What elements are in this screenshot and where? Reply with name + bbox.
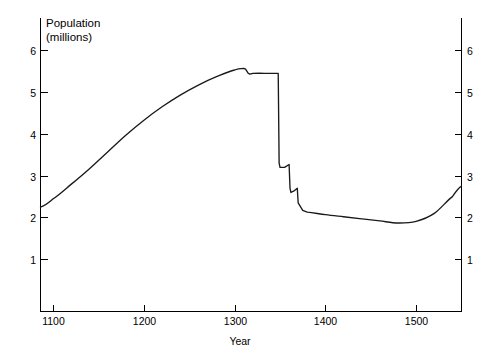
xtick-1100: 1100 <box>42 315 65 327</box>
left-ytick-6: 6 <box>30 45 36 57</box>
right-ytick-2: 2 <box>467 212 473 224</box>
xtick-1400: 1400 <box>314 315 338 327</box>
left-ytick-3: 3 <box>30 171 36 183</box>
y-axis-label-line2: (millions) <box>46 31 92 43</box>
right-y-ticklabels: 6 5 4 3 2 1 <box>467 45 473 266</box>
x-ticklabels: 1100 1200 1300 1400 1500 <box>42 315 428 327</box>
x-axis-title: Year <box>229 335 251 347</box>
chart-canvas: 6 5 4 3 2 1 6 5 4 3 2 1 <box>0 0 498 358</box>
population-chart-figure: 6 5 4 3 2 1 6 5 4 3 2 1 <box>0 0 498 358</box>
population-line <box>41 68 462 223</box>
xtick-1300: 1300 <box>224 315 248 327</box>
left-ytick-1: 1 <box>30 254 36 266</box>
right-ytick-6: 6 <box>467 45 473 57</box>
left-y-ticklabels: 6 5 4 3 2 1 <box>30 45 36 266</box>
right-ytick-3: 3 <box>467 171 473 183</box>
xtick-1500: 1500 <box>405 315 429 327</box>
right-ytick-5: 5 <box>467 87 473 99</box>
y-axis-label-line1: Population <box>46 17 100 29</box>
right-y-ticks <box>455 51 462 260</box>
xtick-1200: 1200 <box>133 315 157 327</box>
left-ytick-4: 4 <box>30 129 36 141</box>
right-ytick-1: 1 <box>467 254 473 266</box>
left-ytick-5: 5 <box>30 87 36 99</box>
left-y-ticks <box>41 51 48 260</box>
right-ytick-4: 4 <box>467 129 473 141</box>
left-ytick-2: 2 <box>30 212 36 224</box>
x-ticks <box>54 305 417 312</box>
